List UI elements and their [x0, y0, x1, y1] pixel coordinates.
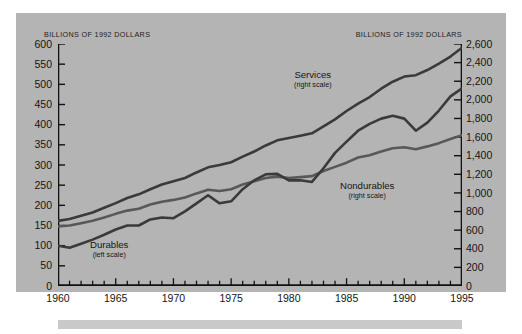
x-tick-marks — [58, 278, 462, 285]
left-tick-label-450: 450 — [0, 99, 52, 110]
left-tick-label-200: 200 — [0, 200, 52, 211]
series-label-nondurables: Nondurables (right scale) — [340, 181, 394, 200]
left-tick-label-50: 50 — [0, 260, 52, 271]
x-axis-tick-labels: 19601965197019751980198519901995 — [0, 293, 522, 309]
series-line-durables — [58, 88, 462, 247]
right-tick-label-200: 200 — [466, 262, 522, 273]
right-tick-label-2,000: 2,000 — [466, 94, 522, 105]
x-tick-label-1990: 1990 — [393, 293, 416, 304]
x-tick-label-1965: 1965 — [104, 293, 127, 304]
right-tick-label-1,400: 1,400 — [466, 150, 522, 161]
left-tick-label-600: 600 — [0, 39, 52, 50]
left-axis-tick-labels: 050100150200250300350400450500550600 — [0, 0, 52, 334]
x-tick-label-1975: 1975 — [219, 293, 242, 304]
right-tick-label-400: 400 — [466, 243, 522, 254]
x-tick-label-1960: 1960 — [46, 293, 69, 304]
right-tick-label-1,800: 1,800 — [466, 113, 522, 124]
right-tick-label-2,400: 2,400 — [466, 57, 522, 68]
chart-figure: BILLIONS OF 1992 DOLLARS BILLIONS OF 199… — [0, 0, 522, 334]
right-tick-label-0: 0 — [466, 281, 522, 292]
right-tick-label-600: 600 — [466, 225, 522, 236]
left-tick-label-350: 350 — [0, 139, 52, 150]
right-axis-tick-labels: 02004006008001,0001,2001,4001,6001,8002,… — [466, 0, 522, 334]
right-tick-label-800: 800 — [466, 206, 522, 217]
left-tick-marks — [59, 44, 66, 286]
series-label-nondurables-scale: (right scale) — [340, 192, 394, 200]
left-tick-label-250: 250 — [0, 180, 52, 191]
right-tick-label-2,600: 2,600 — [466, 39, 522, 50]
right-tick-label-1,200: 1,200 — [466, 169, 522, 180]
series-label-durables-scale: (left scale) — [90, 251, 128, 259]
left-tick-label-400: 400 — [0, 119, 52, 130]
left-tick-label-0: 0 — [0, 281, 52, 292]
x-tick-label-1995: 1995 — [450, 293, 473, 304]
right-tick-marks — [454, 44, 462, 286]
right-tick-label-1,000: 1,000 — [466, 188, 522, 199]
series-label-services: Services (right scale) — [294, 70, 332, 89]
x-tick-label-1970: 1970 — [162, 293, 185, 304]
left-tick-label-550: 550 — [0, 59, 52, 70]
right-tick-label-1,600: 1,600 — [466, 132, 522, 143]
left-tick-label-300: 300 — [0, 160, 52, 171]
right-axis-title: BILLIONS OF 1992 DOLLARS — [0, 30, 462, 39]
series-line-services — [58, 48, 462, 221]
x-tick-label-1980: 1980 — [277, 293, 300, 304]
x-tick-label-1985: 1985 — [335, 293, 358, 304]
series-label-services-scale: (right scale) — [294, 81, 332, 89]
series-label-durables: Durables (left scale) — [90, 240, 128, 259]
footer-bar — [58, 320, 462, 329]
left-tick-label-500: 500 — [0, 79, 52, 90]
left-tick-label-150: 150 — [0, 220, 52, 231]
right-tick-label-2,200: 2,200 — [466, 76, 522, 87]
left-tick-label-100: 100 — [0, 240, 52, 251]
